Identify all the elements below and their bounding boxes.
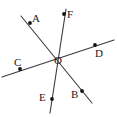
point-label-d: D <box>95 48 103 59</box>
point-label-c: C <box>14 57 21 68</box>
point-label-b: B <box>71 89 78 100</box>
point-dot-f <box>62 12 66 16</box>
point-dot-b <box>80 89 84 93</box>
geometry-figure: AFDOCEB <box>0 0 117 117</box>
point-label-f: F <box>67 9 73 20</box>
point-label-e: E <box>39 92 46 103</box>
point-label-o: O <box>54 55 62 66</box>
point-label-a: A <box>32 13 40 24</box>
point-dot-e <box>50 97 54 101</box>
